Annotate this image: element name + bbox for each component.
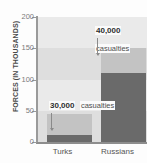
annotation-russians: 40,000 casualties (95, 19, 147, 55)
bar-turks-forces (47, 135, 92, 142)
annotation-turks-caption-plate: casualties (80, 101, 115, 110)
annotation-turks: 30,000 casualties (49, 94, 115, 112)
y-axis-ticks: 200 150 100 50 0 (12, 0, 34, 163)
y-tick-label-200: 200 (12, 13, 34, 20)
annotation-turks-number: 30,000 (50, 101, 74, 110)
x-axis-label-turks: Turks (40, 147, 85, 156)
annotation-russians-leader-line (97, 38, 98, 55)
annotation-russians-number: 40,000 (96, 26, 120, 35)
annotation-russians-caption-plate: casualties (95, 44, 130, 53)
y-tick-label-0: 0 (12, 138, 34, 145)
y-tick-label-150: 150 (12, 44, 34, 51)
bar-chart: FORCES (IN THOUSANDS) 200 150 100 50 0 (0, 0, 147, 163)
annotation-turks-leader-line (51, 113, 52, 130)
annotation-russians-caption: casualties (96, 44, 129, 53)
annotation-turks-number-plate: 30,000 (49, 101, 75, 110)
y-tick-label-50: 50 (12, 107, 34, 114)
bar-turks[interactable] (47, 114, 92, 142)
annotation-russians-number-plate: 40,000 (95, 26, 121, 35)
x-axis-line (36, 142, 147, 144)
x-axis-label-russians: Russians (90, 147, 145, 156)
annotation-turks-caption: casualties (81, 101, 114, 110)
y-tick-label-100: 100 (12, 76, 34, 83)
